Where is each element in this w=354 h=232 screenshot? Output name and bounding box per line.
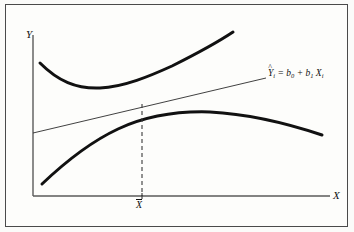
plot-svg (0, 0, 354, 232)
equation-y-subscript: i (273, 72, 275, 79)
x-bar-overbar-glyph: X (136, 199, 142, 211)
equation-plus: + (294, 68, 305, 78)
x-axis-label: X (333, 190, 340, 201)
equation-b0-subscript: 0 (291, 72, 294, 79)
lower-confidence-band-curve (42, 112, 322, 184)
figure-container: Y X X ^Yi = b0 + b1 Xi (0, 0, 354, 232)
x-bar-tick-label: X (136, 199, 142, 211)
hat-accent-icon: ^ (268, 64, 272, 72)
equation-equals: = (275, 68, 286, 78)
equation-x-var: X (316, 68, 322, 78)
regression-line (33, 78, 266, 133)
equation-b1-subscript: 1 (310, 72, 313, 79)
upper-confidence-band-curve (40, 32, 233, 88)
equation-x-subscript: i (322, 72, 324, 79)
y-axis-label: Y (26, 29, 32, 40)
regression-equation-label: ^Yi = b0 + b1 Xi (268, 69, 323, 79)
